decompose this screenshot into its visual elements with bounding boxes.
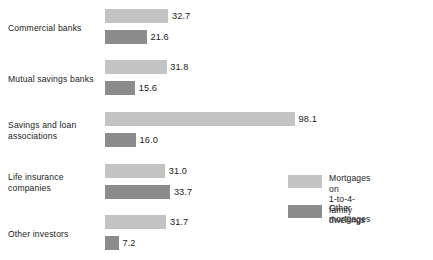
bar-light	[105, 112, 295, 126]
legend-swatch-dark	[288, 205, 322, 218]
bar-value-label: 31.8	[170, 61, 188, 73]
bar-value-label: 21.6	[151, 31, 169, 43]
category-label: Mutual savings banks	[8, 74, 100, 85]
bar-value-label: 31.0	[169, 165, 187, 177]
category-label: Savings and loan associations	[8, 120, 100, 141]
bar-dark	[105, 133, 136, 147]
legend-label: Other mortgages	[329, 203, 371, 224]
legend-swatch-light	[288, 175, 322, 188]
bar-value-label: 33.7	[174, 186, 192, 198]
bar-dark	[105, 185, 170, 199]
bar-light	[105, 215, 166, 229]
bar-chart: Commercial banks 32.7 21.6 Mutual saving…	[0, 0, 433, 260]
category-label: Other investors	[8, 229, 100, 240]
category-label: Life insurance companies	[8, 172, 100, 193]
bar-value-label: 7.2	[123, 237, 136, 249]
bar-value-label: 98.1	[299, 113, 317, 125]
bar-dark	[105, 30, 147, 44]
bar-value-label: 16.0	[140, 134, 158, 146]
bar-value-label: 15.6	[139, 82, 157, 94]
bar-dark	[105, 81, 135, 95]
bar-light	[105, 60, 167, 74]
bar-value-label: 31.7	[170, 216, 188, 228]
bar-light	[105, 164, 165, 178]
bar-value-label: 32.7	[172, 10, 190, 22]
bar-light	[105, 9, 168, 23]
category-label: Commercial banks	[8, 23, 100, 34]
bar-dark	[105, 236, 119, 250]
